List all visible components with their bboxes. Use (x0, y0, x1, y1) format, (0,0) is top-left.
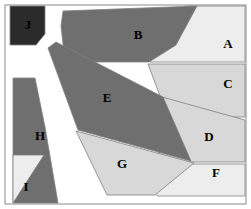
region-label-G: G (117, 156, 127, 171)
region-label-H: H (35, 128, 45, 143)
region-label-F: F (212, 165, 220, 180)
region-label-A: A (223, 36, 233, 51)
region-label-B: B (134, 27, 143, 42)
region-label-E: E (103, 90, 112, 105)
region-label-D: D (204, 129, 213, 144)
region-label-J: J (25, 17, 32, 32)
polygon-region-map: A B C D E F G H I J (0, 0, 251, 209)
region-label-C: C (223, 76, 232, 91)
region-label-I: I (23, 179, 28, 194)
map-canvas: A B C D E F G H I J (0, 0, 251, 209)
